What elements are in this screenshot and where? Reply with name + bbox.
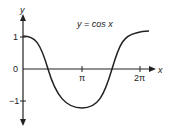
- y-axis-up-arrow-icon: [20, 14, 26, 21]
- x-axis-arrow-icon: [149, 66, 156, 72]
- y-axis-down-arrow-icon: [20, 119, 26, 126]
- x-tick-label-pi: π: [79, 73, 85, 83]
- y-axis-label: y: [19, 5, 25, 15]
- x-tick-label-2pi: 2π: [134, 73, 145, 83]
- chart-title: y = cos x: [76, 19, 113, 29]
- y-tick-label-neg1: −1: [9, 96, 19, 106]
- x-axis-label: x: [157, 65, 163, 75]
- y-tick-label-0: 0: [13, 64, 18, 74]
- y-tick-label-1: 1: [13, 32, 18, 42]
- cosine-chart: y x 1 0 −1 π 2π y = cos x: [0, 0, 171, 133]
